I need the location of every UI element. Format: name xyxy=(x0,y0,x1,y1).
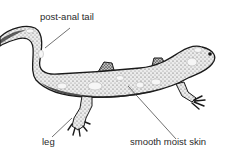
tail-leader-line xyxy=(45,28,70,48)
salamander-diagram: post-anal tail leg smooth moist skin xyxy=(0,0,236,159)
front-left-leg xyxy=(176,82,205,109)
eye xyxy=(208,52,212,56)
skin-leader-line xyxy=(128,86,176,139)
label-smooth-moist-skin: smooth moist skin xyxy=(130,136,206,147)
label-post-anal-tail: post-anal tail xyxy=(40,11,94,22)
back-left-leg xyxy=(68,96,92,136)
label-leg: leg xyxy=(42,136,55,147)
